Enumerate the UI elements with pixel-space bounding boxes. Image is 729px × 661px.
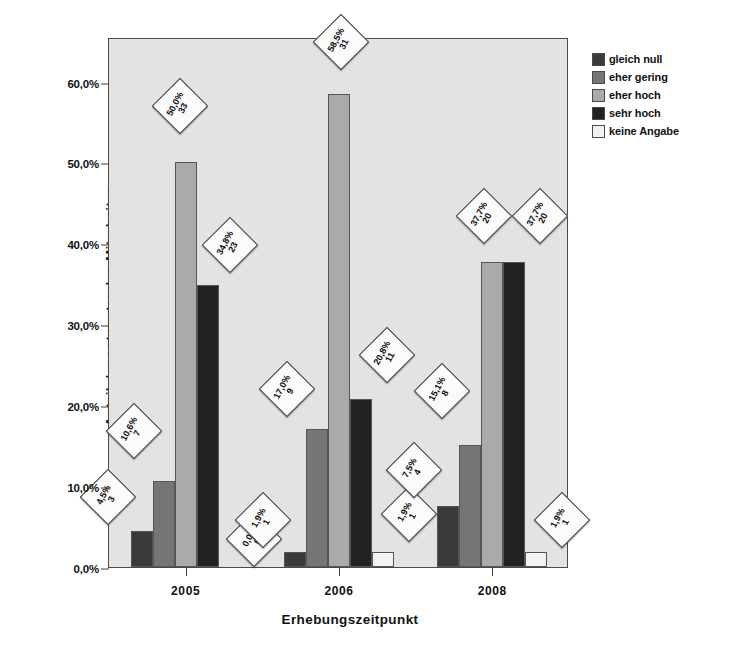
data-label-2005-eher-gering: 10,6%7 [105, 403, 162, 460]
legend-item-eher-hoch[interactable]: eher hoch [592, 88, 724, 102]
data-label-count: 7 [132, 429, 143, 438]
bar-2008-keine-Angabe [525, 552, 547, 567]
data-label-percent: 15,1% [428, 375, 448, 402]
y-axis-tick-mark [101, 164, 109, 165]
data-label-percent: 1,9% [396, 500, 414, 523]
bar-2006-eher-gering [306, 429, 328, 567]
bar-2008-gleich-null [437, 506, 459, 567]
legend-item-label: eher gering [609, 71, 668, 83]
legend-item-label: gleich null [609, 53, 662, 65]
data-label-2006-sehr-hoch: 20,8%11 [359, 326, 416, 383]
bar-2005-eher-hoch [175, 162, 197, 567]
chart-legend: gleich nulleher geringeher hochsehr hoch… [592, 52, 724, 142]
y-axis-tick-label: 30,0% [47, 320, 99, 332]
data-label-2005-sehr-hoch: 34,8%23 [201, 217, 258, 274]
data-label-count: 20 [482, 212, 495, 225]
bar-2008-eher-hoch [481, 262, 503, 567]
y-axis-tick-mark [101, 83, 109, 84]
data-label-count: 1 [408, 511, 419, 520]
data-label-count: 1 [561, 517, 572, 526]
data-label-2008-eher-hoch: 37,7%20 [456, 188, 513, 245]
bar-2005-sehr-hoch [197, 285, 219, 567]
bar-2005-eher-gering [153, 481, 175, 567]
data-label-2006-eher-gering: 17,0%9 [259, 361, 316, 418]
plot-body: 4,5%310,6%750,0%3334,8%230,0%01,9%117,0%… [109, 39, 567, 567]
legend-swatch-icon [592, 107, 605, 120]
data-label-2008-keine-Angabe: 1,9%1 [534, 491, 591, 548]
data-label-count: 8 [441, 389, 452, 398]
bar-2006-eher-hoch [328, 94, 350, 567]
data-label-percent: 17,0% [273, 374, 293, 401]
legend-swatch-icon [592, 125, 605, 138]
data-label-count: 3 [106, 494, 117, 503]
data-label-2006-eher-hoch: 58,5%31 [313, 13, 370, 70]
data-label-2005-gleich-null: 4,5%3 [79, 468, 136, 525]
data-label-count: 33 [177, 102, 190, 115]
legend-swatch-icon [592, 89, 605, 102]
bar-2005-gleich-null [131, 531, 153, 567]
data-label-count: 23 [227, 241, 240, 254]
y-axis-tick-label: 10,0% [47, 482, 99, 494]
data-label-percent: 10,6% [119, 416, 139, 443]
data-label-percent: 1,9% [549, 506, 567, 529]
y-axis-tick-mark [101, 488, 109, 489]
data-label-count: 20 [538, 212, 551, 225]
bar-chart: Anteil der antwortenden Mitarbeiter 4,5%… [0, 0, 729, 661]
x-axis-title: Erhebungszeitpunkt [120, 612, 580, 627]
data-label-2008-eher-gering: 15,1%8 [414, 363, 471, 420]
data-label-2008-sehr-hoch: 37,7%20 [512, 188, 569, 245]
bar-2008-eher-gering [459, 445, 481, 567]
data-label-count: 9 [286, 387, 297, 396]
data-label-count: 11 [385, 350, 398, 363]
data-label-2005-eher-hoch: 50,0%33 [151, 78, 208, 135]
x-axis-tick-mark [339, 567, 340, 576]
y-axis-tick-mark [101, 326, 109, 327]
bar-2008-sehr-hoch [503, 262, 525, 567]
bar-2006-sehr-hoch [350, 399, 372, 567]
legend-item-eher-gering[interactable]: eher gering [592, 70, 724, 84]
data-label-2008-gleich-null: 7,5%4 [386, 442, 443, 499]
bar-2006-keine-Angabe [372, 552, 394, 567]
legend-item-keine-Angabe[interactable]: keine Angabe [592, 124, 724, 138]
y-axis-tick-label: 20,0% [47, 401, 99, 413]
y-axis-tick-mark [101, 407, 109, 408]
y-axis-tick-label: 40,0% [47, 239, 99, 251]
x-axis-tick-mark [186, 567, 187, 576]
data-label-count: 1 [262, 517, 273, 526]
data-label-count: 31 [339, 37, 352, 50]
x-axis-tick-label-2006: 2006 [294, 584, 384, 598]
x-axis-tick-label-2008: 2008 [447, 584, 537, 598]
legend-item-sehr-hoch[interactable]: sehr hoch [592, 106, 724, 120]
y-axis-tick-mark [101, 569, 109, 570]
x-axis-tick-label-2005: 2005 [141, 584, 231, 598]
y-axis-tick-mark [101, 245, 109, 246]
y-axis-tick-label: 60,0% [47, 78, 99, 90]
legend-swatch-icon [592, 53, 605, 66]
data-label-count: 4 [413, 468, 424, 477]
y-axis-tick-label: 50,0% [47, 158, 99, 170]
legend-item-gleich-null[interactable]: gleich null [592, 52, 724, 66]
legend-item-label: eher hoch [609, 89, 661, 101]
data-label-percent: 1,9% [250, 506, 268, 529]
x-axis-tick-mark [492, 567, 493, 576]
legend-item-label: keine Angabe [609, 125, 679, 137]
bar-2006-gleich-null [284, 552, 306, 567]
y-axis-tick-label: 0,0% [47, 563, 99, 575]
plot-area: 4,5%310,6%750,0%3334,8%230,0%01,9%117,0%… [108, 38, 568, 568]
legend-item-label: sehr hoch [609, 107, 661, 119]
legend-swatch-icon [592, 71, 605, 84]
